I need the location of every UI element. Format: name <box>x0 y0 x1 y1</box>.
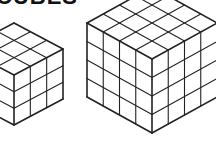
small-cube-figure <box>0 23 63 125</box>
large-cube-figure <box>87 0 216 133</box>
cubes-diagram <box>0 0 216 148</box>
